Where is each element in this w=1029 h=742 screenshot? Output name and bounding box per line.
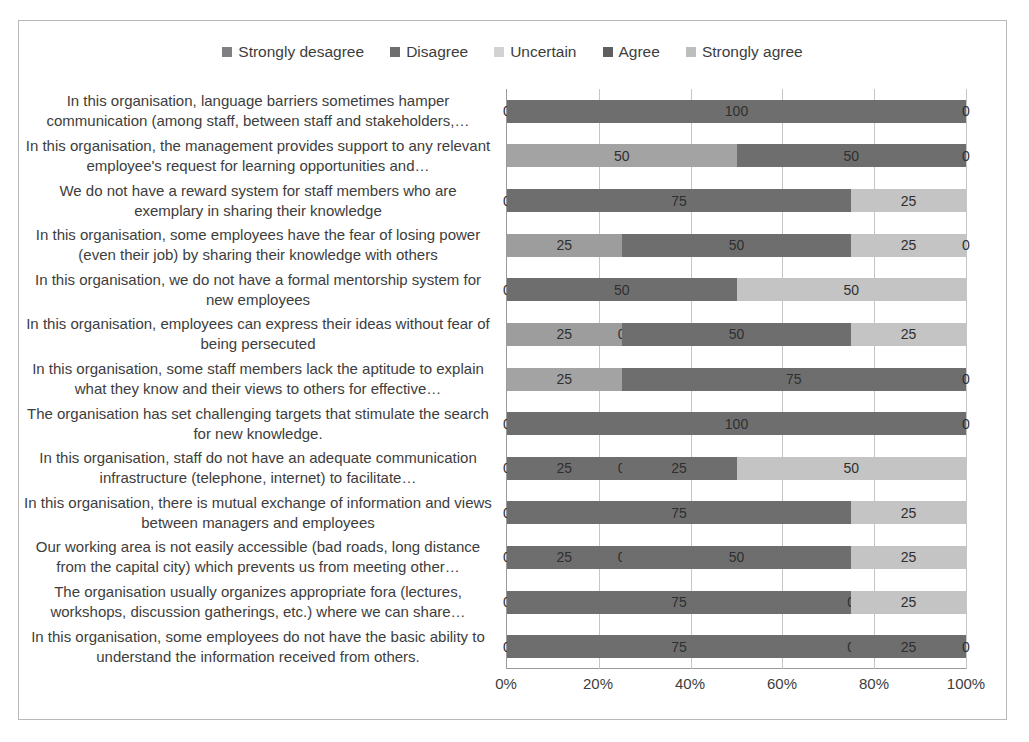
- category-label: In this organisation, employees can expr…: [19, 312, 497, 357]
- bar-row[interactable]: 50500: [507, 144, 966, 167]
- bar-row[interactable]: 01000: [507, 412, 966, 435]
- bar-segment[interactable]: 25: [851, 591, 966, 614]
- bar-segment[interactable]: 100: [507, 100, 966, 123]
- legend-swatch-icon: [222, 47, 232, 57]
- bar-value-label: 25: [671, 460, 687, 476]
- bar-row[interactable]: 2505025: [507, 323, 966, 346]
- x-tick-label: 100%: [947, 675, 985, 692]
- category-label: In this organisation, staff do not have …: [19, 446, 497, 491]
- legend-label: Strongly agree: [702, 43, 803, 61]
- bar-row[interactable]: 0750250: [507, 635, 966, 658]
- category-label: In this organisation, language barriers …: [19, 89, 497, 134]
- bar-segment[interactable]: 50: [622, 546, 852, 569]
- bar-segment[interactable]: 50: [507, 144, 737, 167]
- bar-segment[interactable]: 25: [851, 234, 966, 257]
- bar-value-label: 25: [557, 371, 573, 387]
- category-label: In this organisation, there is mutual ex…: [19, 491, 497, 536]
- bar-row[interactable]: 07525: [507, 501, 966, 524]
- bar-row[interactable]: 07525: [507, 189, 966, 212]
- chart-frame: Strongly desagreeDisagreeUncertainAgreeS…: [18, 20, 1007, 720]
- legend-swatch-icon: [390, 47, 400, 57]
- bar-row[interactable]: 05050: [507, 278, 966, 301]
- bar-value-label: 25: [901, 549, 917, 565]
- legend-item[interactable]: Uncertain: [494, 43, 576, 61]
- bar-value-label: 50: [614, 282, 630, 298]
- bar-segment[interactable]: 25: [507, 546, 622, 569]
- category-label: We do not have a reward system for staff…: [19, 178, 497, 223]
- bar-row[interactable]: 2550250: [507, 234, 966, 257]
- bar-value-label: 50: [843, 148, 859, 164]
- bar-row[interactable]: 01000: [507, 100, 966, 123]
- legend-item[interactable]: Strongly agree: [686, 43, 803, 61]
- category-label: In this organisation, the management pro…: [19, 134, 497, 179]
- bar-value-label: 50: [614, 148, 630, 164]
- bar-segment[interactable]: 25: [851, 189, 966, 212]
- bar-segment[interactable]: 25: [507, 234, 622, 257]
- category-label-text: In this organisation, some employees hav…: [19, 225, 497, 265]
- category-label: In this organisation, some employees do …: [19, 624, 497, 669]
- bar-segment[interactable]: 50: [737, 144, 967, 167]
- bar-row[interactable]: 02502550: [507, 457, 966, 480]
- bar-segment[interactable]: 50: [622, 323, 852, 346]
- bar-segment[interactable]: 75: [507, 635, 851, 658]
- legend-label: Disagree: [406, 43, 468, 61]
- bar-value-label: 25: [557, 237, 573, 253]
- bar-segment[interactable]: 25: [851, 635, 966, 658]
- bar-value-label: 50: [729, 237, 745, 253]
- bar-segment[interactable]: 50: [737, 278, 967, 301]
- category-label-text: In this organisation, employees can expr…: [19, 314, 497, 354]
- bar-segment[interactable]: 25: [851, 323, 966, 346]
- bar-segment[interactable]: 75: [507, 591, 851, 614]
- bar-value-label: 75: [671, 193, 687, 209]
- bar-value-label: 50: [729, 326, 745, 342]
- legend-swatch-icon: [603, 47, 613, 57]
- bar-segment[interactable]: 50: [622, 234, 852, 257]
- legend-label: Uncertain: [510, 43, 576, 61]
- legend-item[interactable]: Agree: [603, 43, 660, 61]
- bar-segment[interactable]: 25: [507, 368, 622, 391]
- bar-row[interactable]: 02505025: [507, 546, 966, 569]
- x-axis-tick-labels: 0%20%40%60%80%100%: [506, 675, 966, 699]
- x-tick-label: 40%: [675, 675, 705, 692]
- bar-value-label: 0: [962, 371, 970, 387]
- bar-value-label: 25: [901, 594, 917, 610]
- plot-area: 0100050500075252550250050502505025257500…: [506, 89, 966, 669]
- bar-row[interactable]: 25750: [507, 368, 966, 391]
- x-tick-label: 60%: [767, 675, 797, 692]
- bar-segment[interactable]: 25: [622, 457, 737, 480]
- bar-segment[interactable]: 75: [507, 189, 851, 212]
- plot-wrapper: In this organisation, language barriers …: [19, 89, 1008, 689]
- bar-segment[interactable]: 25: [851, 501, 966, 524]
- bar-value-label: 25: [901, 237, 917, 253]
- bar-row[interactable]: 075025: [507, 591, 966, 614]
- bar-value-label: 75: [786, 371, 802, 387]
- bar-value-label: 50: [843, 282, 859, 298]
- bar-segment[interactable]: 100: [507, 412, 966, 435]
- bar-value-label: 0: [962, 237, 970, 253]
- category-label-text: Our working area is not easily accessibl…: [19, 537, 497, 577]
- bar-segment[interactable]: 50: [737, 457, 967, 480]
- legend-label: Strongly desagree: [238, 43, 364, 61]
- category-label-text: We do not have a reward system for staff…: [19, 181, 497, 221]
- bar-segment[interactable]: 50: [507, 278, 737, 301]
- bar-segment[interactable]: 25: [851, 546, 966, 569]
- bar-value-label: 0: [962, 103, 970, 119]
- legend-label: Agree: [619, 43, 660, 61]
- bar-value-label: 25: [901, 505, 917, 521]
- bar-segment[interactable]: 25: [507, 457, 622, 480]
- bar-value-label: 25: [557, 460, 573, 476]
- category-label-text: The organisation has set challenging tar…: [19, 404, 497, 444]
- bar-segment[interactable]: 75: [622, 368, 966, 391]
- bar-value-label: 25: [901, 193, 917, 209]
- legend-item[interactable]: Strongly desagree: [222, 43, 364, 61]
- category-label-text: In this organisation, there is mutual ex…: [19, 493, 497, 533]
- legend-item[interactable]: Disagree: [390, 43, 468, 61]
- bar-segment[interactable]: 75: [507, 501, 851, 524]
- bar-value-label: 0: [962, 639, 970, 655]
- bar-value-label: 25: [901, 326, 917, 342]
- category-label-text: In this organisation, we do not have a f…: [19, 270, 497, 310]
- bar-value-label: 25: [901, 639, 917, 655]
- bar-value-label: 25: [557, 326, 573, 342]
- bar-segment[interactable]: 25: [507, 323, 622, 346]
- category-label: The organisation usually organizes appro…: [19, 580, 497, 625]
